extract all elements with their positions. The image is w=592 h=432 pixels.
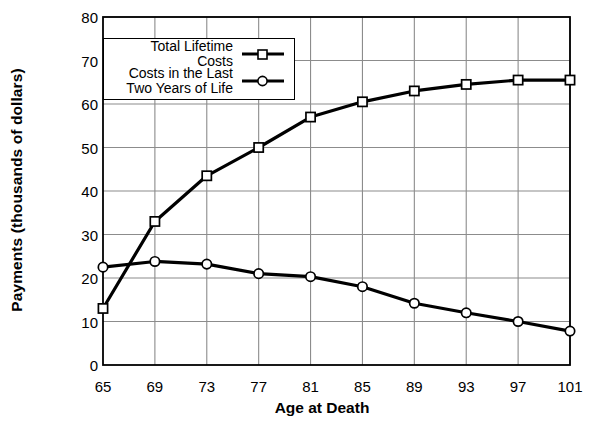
series-line-1 [103,261,570,331]
legend-label-costs-last-two-years: Costs in the Last Two Years of Life [114,66,240,97]
data-point-marker-square [306,112,315,121]
x-axis-tick-93: 93 [458,379,475,394]
legend-marker-circle-icon [240,72,286,90]
data-point-marker-circle [150,257,159,266]
x-axis-label: Age at Death [0,399,592,417]
x-axis-tick-97: 97 [510,379,527,394]
data-point-marker-circle [462,308,471,317]
data-point-marker-circle [254,269,263,278]
x-axis-tick-69: 69 [147,379,164,394]
data-point-marker-square [565,75,574,84]
chart-legend: Total Lifetime Costs Costs in the Last T… [103,38,295,100]
data-point-marker-square [98,304,107,313]
data-point-marker-square [202,171,211,180]
legend-marker-square-icon [240,45,286,63]
data-point-marker-square [150,217,159,226]
x-axis-tick-73: 73 [198,379,215,394]
chart-container: Payments (thousands of dollars) 01020304… [0,0,592,432]
data-point-marker-square [254,143,263,152]
x-axis-tick-85: 85 [354,379,371,394]
data-point-marker-circle [306,272,315,281]
data-point-marker-square [514,75,523,84]
plot-area [0,0,592,432]
data-point-marker-square [462,80,471,89]
data-point-marker-circle [513,317,522,326]
data-point-marker-square [410,86,419,95]
data-point-marker-circle [565,326,574,335]
data-point-marker-square [358,97,367,106]
data-point-marker-circle [202,259,211,268]
data-point-marker-circle [98,262,107,271]
data-point-marker-circle [358,282,367,291]
legend-item-total-lifetime-costs: Total Lifetime Costs [104,43,294,65]
x-axis-tick-65: 65 [95,379,112,394]
series-line-0 [103,80,570,308]
data-point-marker-circle [410,299,419,308]
x-axis-tick-101: 101 [557,379,582,394]
x-axis-tick-81: 81 [302,379,319,394]
x-axis-label-text: Age at Death [223,399,370,416]
legend-item-costs-last-two-years: Costs in the Last Two Years of Life [104,65,294,97]
x-axis-tick-89: 89 [406,379,423,394]
x-axis-tick-77: 77 [250,379,267,394]
